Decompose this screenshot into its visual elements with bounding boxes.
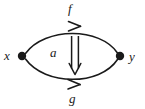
- object-label-x: x: [4, 49, 10, 62]
- arrow-label-g: g: [69, 92, 76, 105]
- two-cell-a-arrowhead: [69, 64, 81, 75]
- two-cell-label-a: a: [50, 46, 57, 59]
- vertex-dot-x: [18, 52, 26, 60]
- diagram-canvas: x y f g a: [0, 0, 145, 109]
- arrow-f-arrowhead: [69, 22, 81, 32]
- arrow-g-arrowhead: [68, 80, 80, 90]
- object-label-y: y: [129, 50, 135, 63]
- arrow-label-f: f: [68, 2, 72, 15]
- two-cell-a-double-arrow: [72, 36, 79, 69]
- vertex-dot-y: [116, 52, 124, 60]
